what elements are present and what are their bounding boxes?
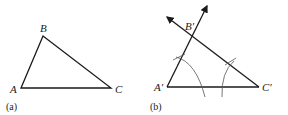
construction-b bbox=[167, 6, 259, 97]
ray-from-a-prime bbox=[167, 6, 207, 87]
caption-a: (a) bbox=[6, 101, 17, 113]
vertex-label-c: C bbox=[115, 83, 123, 95]
arc-at-a-prime bbox=[176, 57, 205, 97]
vertex-label-b: B bbox=[40, 22, 47, 34]
tick-mark-a bbox=[173, 54, 185, 60]
vertex-label-a: A bbox=[9, 83, 17, 95]
figure: B A C (a) B′ A′ C′ (b) bbox=[0, 0, 288, 115]
ray-from-c-prime bbox=[167, 17, 259, 87]
triangle-abc bbox=[21, 36, 111, 88]
vertex-label-c-prime: C′ bbox=[262, 81, 272, 93]
vertex-label-a-prime: A′ bbox=[153, 81, 164, 93]
caption-b: (b) bbox=[150, 101, 162, 113]
vertex-label-b-prime: B′ bbox=[185, 20, 195, 32]
